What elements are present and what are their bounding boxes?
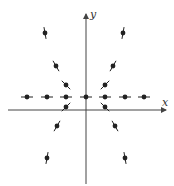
slope-segment xyxy=(138,95,150,100)
slope-segment xyxy=(119,95,131,100)
slope-segment xyxy=(45,152,50,164)
slope-segment xyxy=(53,61,59,71)
slope-segment xyxy=(99,95,111,100)
slope-segment xyxy=(112,121,118,131)
slope-field-diagram: x y xyxy=(0,0,174,186)
slope-segment xyxy=(41,95,53,100)
slope-segment xyxy=(62,81,70,89)
slope-segment xyxy=(43,27,48,39)
slope-segment xyxy=(80,95,92,100)
slope-segment xyxy=(110,61,116,71)
slope-segment xyxy=(101,81,109,89)
slope-segment xyxy=(54,121,60,131)
slope-segment xyxy=(121,27,126,39)
slope-segment xyxy=(21,95,33,100)
y-axis-label: y xyxy=(90,9,96,20)
slope-segment xyxy=(60,95,72,100)
slope-segment xyxy=(123,152,128,164)
x-axis-label: x xyxy=(162,97,168,108)
plot-area xyxy=(0,0,174,186)
